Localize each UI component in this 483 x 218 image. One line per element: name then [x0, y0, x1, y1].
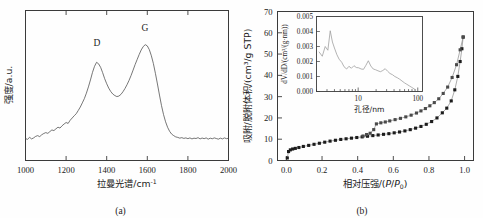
raman-plot: 100012001400160018002000 DG 拉曼光谱/cm-1 强度… [0, 0, 241, 200]
data-point [430, 120, 433, 123]
data-point [410, 114, 413, 117]
data-point [365, 133, 368, 136]
panel-caption-a: (a) [0, 206, 241, 216]
data-point [451, 76, 454, 79]
pore-size-distribution-inset: 10100 0.0000.0010.0020.0030.0040.005 孔径/… [281, 13, 424, 114]
data-point [384, 120, 387, 123]
x-axis-title-b: 相对压强/(P/P0) [343, 178, 408, 190]
inset-axis-ticks [317, 17, 418, 92]
data-point [459, 48, 462, 51]
panel-b-adsorption-isotherm: 0.00.20.40.60.81.0 010203040506070 10100… [241, 0, 483, 218]
data-point [419, 109, 422, 112]
y-tick-label: 50 [264, 49, 273, 59]
y-tick-label: 30 [264, 92, 273, 102]
data-point [456, 75, 459, 78]
data-point [350, 137, 353, 140]
peak-annotations: DG [94, 23, 149, 48]
data-point [455, 63, 458, 66]
y-axis-title-b: 吸附/脱附体积/(cm³/g STP) [242, 29, 253, 144]
adsorption-branch-line [287, 37, 463, 158]
x-tick-label: 0.6 [388, 165, 399, 175]
figure-container: 100012001400160018002000 DG 拉曼光谱/cm-1 强度… [0, 0, 483, 218]
data-point [345, 137, 348, 140]
data-point [375, 122, 378, 125]
data-point [286, 156, 289, 159]
inset-y-tick-label: 0.004 [297, 28, 314, 36]
x-tick-label: 1600 [139, 165, 156, 175]
data-point [404, 115, 407, 118]
x-tick-label: 0.0 [281, 165, 292, 175]
data-point [329, 140, 332, 143]
panel-a-raman-spectrum: 100012001400160018002000 DG 拉曼光谱/cm-1 强度… [0, 0, 241, 218]
isotherm-plot: 0.00.20.40.60.81.0 010203040506070 10100… [241, 0, 483, 200]
data-point [382, 133, 385, 136]
data-point [372, 128, 375, 131]
data-point [399, 117, 402, 120]
inset-y-tick-label: 0.002 [297, 58, 314, 66]
data-point [388, 119, 391, 122]
data-point [459, 60, 462, 63]
data-point [379, 121, 382, 124]
data-point [377, 133, 380, 136]
x-tick-label: 0.8 [424, 165, 435, 175]
data-point [393, 131, 396, 134]
data-point [294, 147, 297, 150]
data-point [462, 35, 465, 38]
data-point [445, 107, 448, 110]
x-axis-title-a: 拉曼光谱/cm-1 [97, 178, 157, 189]
x-axis-tick-labels-b: 0.00.20.40.60.81.0 [281, 165, 470, 175]
data-point [446, 86, 449, 89]
x-axis-tick-labels-a: 100012001400160018002000 [17, 165, 237, 175]
inset-y-axis-title: dV/dD/(cm³/(g·nm)) [281, 24, 289, 84]
y-tick-label: 60 [264, 28, 273, 38]
data-point [394, 118, 397, 121]
pore-size-distribution-curve [319, 31, 416, 90]
y-tick-label: 70 [264, 7, 273, 17]
inset-y-tick-labels: 0.0000.0010.0020.0030.0040.005 [297, 13, 314, 96]
data-point [433, 101, 436, 104]
inset-y-tick-label: 0.001 [297, 73, 314, 81]
y-tick-label: 40 [264, 70, 273, 80]
inset-x-axis-title: 孔径/nm [354, 104, 385, 114]
inset-frame [317, 17, 423, 92]
x-tick-label: 1200 [58, 165, 75, 175]
data-point [371, 134, 374, 137]
y-axis-title-a: 强度/a.u. [3, 66, 14, 105]
data-point [297, 146, 300, 149]
inset-x-tick-label: 10 [355, 95, 363, 103]
x-tick-label: 1400 [98, 165, 115, 175]
data-point [323, 141, 326, 144]
data-point [291, 147, 294, 150]
data-point [415, 111, 418, 114]
data-point [435, 116, 438, 119]
inset-y-tick-label: 0.000 [297, 88, 314, 96]
data-point [437, 97, 440, 100]
data-point [453, 88, 456, 91]
desorption-data-points [361, 35, 464, 137]
peak-label-d: D [94, 38, 101, 48]
x-tick-label: 0.4 [352, 165, 363, 175]
data-point [339, 138, 342, 141]
data-point [414, 127, 417, 130]
panel-caption-b: (b) [241, 206, 483, 216]
y-tick-label: 20 [264, 113, 273, 123]
x-tick-label: 1800 [179, 165, 196, 175]
data-point [318, 142, 321, 145]
data-point [425, 123, 428, 126]
data-point [409, 128, 412, 131]
x-tick-label: 0.2 [317, 165, 328, 175]
data-point [369, 132, 372, 135]
data-point [419, 125, 422, 128]
inset-y-tick-label: 0.003 [297, 43, 314, 51]
data-point [355, 136, 358, 139]
x-tick-label: 1.0 [459, 165, 470, 175]
inset-x-tick-label: 100 [412, 95, 423, 103]
y-axis-tick-labels-b: 010203040506070 [264, 7, 273, 166]
data-point [424, 107, 427, 110]
y-tick-label: 0 [268, 156, 272, 166]
data-point [428, 104, 431, 107]
data-point [450, 99, 453, 102]
raman-intensity-curve [26, 45, 229, 140]
peak-label-g: G [141, 23, 148, 33]
x-tick-label: 2000 [220, 165, 237, 175]
